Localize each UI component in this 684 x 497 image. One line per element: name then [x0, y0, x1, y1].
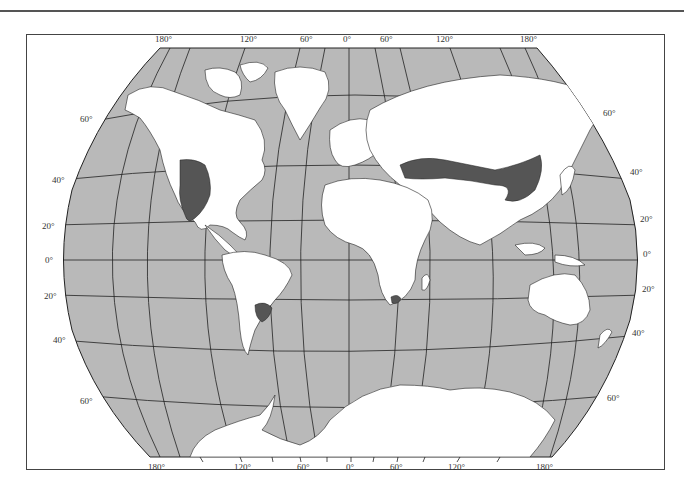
lat-label-right-4: 20° [642, 284, 655, 294]
lat-label-left-6: 60° [80, 396, 93, 406]
lon-label-bottom-0: 180° [148, 462, 166, 472]
lat-label-left-1: 40° [52, 175, 65, 185]
lon-label-top-5: 120° [436, 34, 454, 44]
lon-label-bottom-1: 120° [234, 462, 252, 472]
lon-label-bottom-4: 60° [390, 462, 403, 472]
lat-label-right-2: 20° [640, 214, 653, 224]
lon-label-top-3: 0° [343, 34, 352, 44]
lat-label-right-5: 40° [632, 328, 645, 338]
lat-label-left-0: 60° [80, 114, 93, 124]
lat-label-right-3: 0° [643, 249, 652, 259]
lon-label-top-4: 60° [380, 34, 393, 44]
lon-label-top-6: 180° [520, 34, 538, 44]
lat-label-right-6: 60° [607, 393, 620, 403]
world-map: 180° 120° 60° 0° 60° 120° 180° 180° 120°… [0, 0, 684, 497]
lon-label-top-1: 120° [240, 34, 258, 44]
lon-label-top-0: 180° [155, 34, 173, 44]
lat-label-left-5: 40° [53, 335, 66, 345]
longitude-labels-bottom: 180° 120° 60° 0° 60° 120° 180° [148, 462, 554, 472]
lat-label-left-2: 20° [42, 221, 55, 231]
lon-label-bottom-2: 60° [297, 462, 310, 472]
lat-label-right-1: 40° [630, 167, 643, 177]
lon-label-bottom-6: 180° [536, 462, 554, 472]
lat-label-left-3: 0° [45, 255, 54, 265]
lon-label-bottom-3: 0° [346, 462, 355, 472]
lon-label-bottom-5: 120° [448, 462, 466, 472]
lat-label-left-4: 20° [44, 291, 57, 301]
lon-label-top-2: 60° [300, 34, 313, 44]
lat-label-right-0: 60° [603, 108, 616, 118]
longitude-labels-top: 180° 120° 60° 0° 60° 120° 180° [155, 34, 538, 44]
